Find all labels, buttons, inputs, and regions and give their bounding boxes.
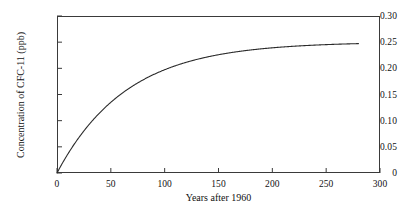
x-tick-label: 300 (360, 179, 400, 189)
x-tick-label: 250 (306, 179, 346, 189)
y-tick-label: 0.15 (345, 90, 397, 100)
x-tick-label: 50 (91, 179, 131, 189)
x-axis-title: Years after 1960 (57, 192, 380, 204)
y-axis-title-text: Concentration of CFC-11 (ppb) (15, 31, 27, 157)
y-tick-label: 0 (345, 168, 397, 178)
y-tick-label: 0.30 (345, 11, 397, 21)
x-tick-label: 200 (252, 179, 292, 189)
x-tick-label: 100 (145, 179, 185, 189)
y-tick-label: 0.25 (345, 37, 397, 47)
y-tick-label: 0.05 (345, 142, 397, 152)
x-tick-label: 0 (37, 179, 77, 189)
y-axis-title: Concentration of CFC-11 (ppb) (14, 16, 28, 173)
y-tick-label: 0.20 (345, 63, 397, 73)
y-tick-label: 0.10 (345, 116, 397, 126)
plot-frame (57, 16, 380, 173)
x-tick-label: 150 (199, 179, 239, 189)
